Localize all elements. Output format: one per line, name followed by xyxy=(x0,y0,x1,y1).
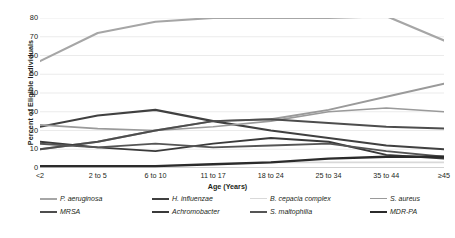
legend-swatch-icon xyxy=(152,198,169,200)
legend-swatch-icon xyxy=(250,211,267,213)
y-tick-40: 40 xyxy=(20,89,38,97)
chart-container: Percent of Eligible Individuals 01020304… xyxy=(0,0,455,238)
x-tick-5: 25 to 34 xyxy=(316,171,342,180)
y-tick-80: 80 xyxy=(20,14,38,22)
y-tick-30: 30 xyxy=(20,108,38,116)
legend-label: Achromobacter xyxy=(172,207,219,216)
legend-label: P. aeruginosa xyxy=(60,194,102,203)
legend-label: MRSA xyxy=(60,207,80,216)
chart-svg xyxy=(40,18,444,168)
x-axis-title: Age (Years) xyxy=(0,182,455,191)
legend-label: S. maltophilia xyxy=(270,207,312,216)
legend-label: MDR-PA xyxy=(390,207,417,216)
series-line-h-influenzae xyxy=(40,110,444,149)
x-tick-2: 6 to 10 xyxy=(144,171,166,180)
chart-legend: P. aeruginosaH. influenzaeB. cepacia com… xyxy=(40,194,450,226)
legend-item-b-cepacia-complex[interactable]: B. cepacia complex xyxy=(250,194,331,203)
legend-item-s-maltophilia[interactable]: S. maltophilia xyxy=(250,207,312,216)
legend-label: S. aureus xyxy=(390,194,420,203)
plot-area xyxy=(40,18,444,168)
legend-item-p-aeruginosa[interactable]: P. aeruginosa xyxy=(40,194,102,203)
x-tick-3: 11 to 17 xyxy=(200,171,225,180)
legend-row-2: MRSAAchromobacterS. maltophiliaMDR-PA xyxy=(40,207,450,220)
series-line-s-aureus-rising xyxy=(40,84,444,150)
y-tick-70: 70 xyxy=(20,33,38,41)
legend-swatch-icon xyxy=(250,198,267,199)
legend-item-mrsa[interactable]: MRSA xyxy=(40,207,80,216)
x-tick-7: ≥45 xyxy=(438,171,450,180)
y-tick-20: 20 xyxy=(20,127,38,135)
legend-item-h-influenzae[interactable]: H. influenzae xyxy=(152,194,213,203)
x-tick-4: 18 to 24 xyxy=(258,171,284,180)
legend-item-s-aureus[interactable]: S. aureus xyxy=(370,194,420,203)
legend-label: B. cepacia complex xyxy=(270,194,331,203)
y-tick-60: 60 xyxy=(20,52,38,60)
x-tick-0: <2 xyxy=(36,171,44,180)
legend-swatch-icon xyxy=(370,198,387,199)
legend-swatch-icon xyxy=(152,211,169,213)
y-axis-tick-labels: 01020304050607080 xyxy=(14,18,38,168)
x-tick-1: 2 to 5 xyxy=(89,171,107,180)
legend-swatch-icon xyxy=(370,211,387,213)
x-tick-6: 35 to 44 xyxy=(373,171,399,180)
series-line-mdr-pa xyxy=(40,157,444,166)
series-line-p-aeruginosa xyxy=(40,18,444,61)
y-tick-10: 10 xyxy=(20,145,38,153)
legend-swatch-icon xyxy=(40,198,57,200)
legend-item-mdr-pa[interactable]: MDR-PA xyxy=(370,207,417,216)
legend-swatch-icon xyxy=(40,211,57,213)
legend-row-1: P. aeruginosaH. influenzaeB. cepacia com… xyxy=(40,194,450,207)
legend-label: H. influenzae xyxy=(172,194,213,203)
legend-item-achromobacter[interactable]: Achromobacter xyxy=(152,207,219,216)
y-tick-50: 50 xyxy=(20,70,38,78)
